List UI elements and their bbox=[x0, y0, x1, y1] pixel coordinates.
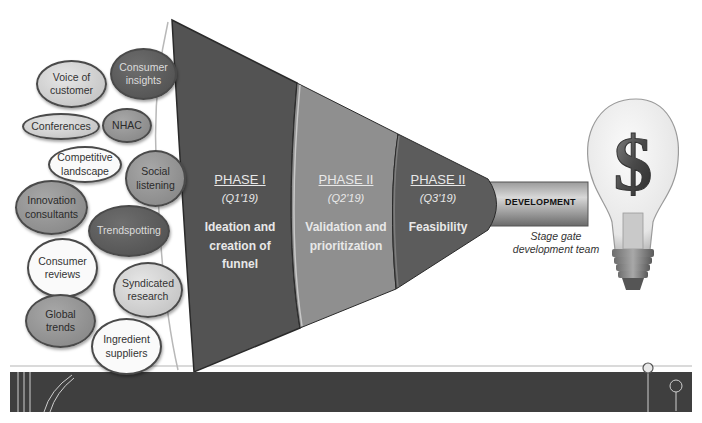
input-voice-of-customer: Voice ofcustomer bbox=[36, 60, 107, 108]
input-consumer-reviews: Consumerreviews bbox=[27, 238, 98, 298]
development-label: DEVELOPMENT bbox=[505, 197, 576, 207]
input-global-trends: Globaltrends bbox=[25, 294, 96, 348]
base-node-icon bbox=[643, 363, 653, 373]
dollar-lightbulb-icon: $ bbox=[588, 99, 679, 290]
svg-text:$: $ bbox=[614, 120, 653, 207]
input-syndicated-research: Syndicatedresearch bbox=[113, 262, 183, 318]
input-conferences: Conferences bbox=[22, 113, 100, 140]
input-ingredient-suppliers: Ingredientsuppliers bbox=[91, 318, 162, 375]
input-trendspotting: Trendspotting bbox=[88, 205, 170, 257]
input-social-listening: Sociallistening bbox=[125, 150, 186, 207]
input-nhac: NHAC bbox=[102, 108, 152, 143]
input-competitive-landscape: Competitivelandscape bbox=[48, 146, 122, 183]
phase-3-label: PHASE II (Q3'19) Feasibility bbox=[398, 172, 478, 237]
input-consumer-insights: Consumerinsights bbox=[110, 48, 177, 100]
phase-2-label: PHASE II (Q2'19) Validation andprioritiz… bbox=[296, 172, 396, 255]
base-bar bbox=[10, 372, 692, 412]
input-innovation-consultants: Innovationconsultants bbox=[15, 180, 88, 235]
innovation-funnel-diagram: $ Voice ofcustomer Consumerinsights Conf… bbox=[0, 0, 702, 423]
stage-gate-caption: Stage gatedevelopment team bbox=[508, 230, 604, 255]
phase-1-label: PHASE I (Q1'19) Ideation andcreation off… bbox=[190, 172, 290, 274]
